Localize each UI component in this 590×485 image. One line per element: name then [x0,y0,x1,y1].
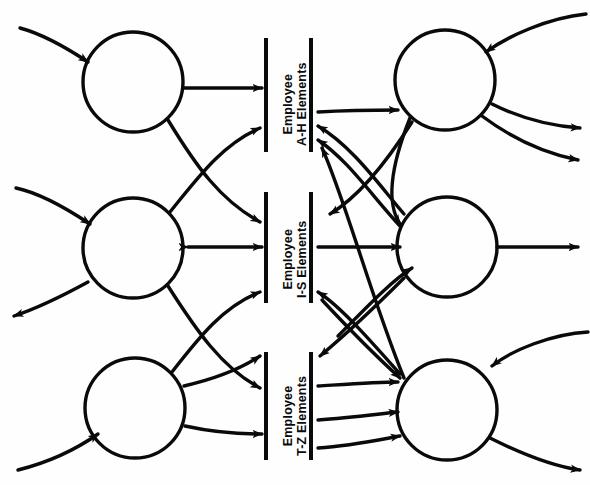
data-store-label-2-line1: Employee [281,229,295,290]
flow-p2-to-ds3 [168,286,260,388]
data-store-label-1: Employee A-H Elements [281,62,309,146]
external-flow-in-bottom-right [492,332,588,366]
flow-ds3-to-p6-b [318,412,398,420]
external-flow-out-middle-left [14,282,88,316]
data-store-label-3-line1: Employee [281,386,295,447]
external-flow-in-top-left [20,28,88,62]
process-circle-middle-right [397,197,497,297]
flow-ds3-to-p6-a [318,382,398,386]
data-store-label-2: Employee I-S Elements [281,221,309,298]
process-circle-bottom-right [397,360,497,460]
process-circle-bottom-left [85,358,185,458]
flow-p3-to-ds3 [185,426,262,434]
diagram-canvas: Employee A-H Elements Employee I-S Eleme… [0,0,590,485]
external-flow-out-top-right-upper [492,104,580,128]
flow-ds1-to-p4 [318,110,398,112]
external-flow-in-bottom-left [18,434,98,470]
data-store-label-2-line2: I-S Elements [295,221,309,298]
data-store-label-3-line2: T-Z Elements [295,376,309,456]
external-flow-in-middle-left [16,188,90,224]
process-circle-top-left [83,32,183,132]
flow-p2-to-ds1 [170,128,260,212]
process-circle-top-right [395,30,495,130]
external-flow-in-top-right [486,14,586,52]
data-store-label-1-line2: A-H Elements [295,62,309,146]
data-store-label-1-line1: Employee [281,74,295,135]
external-flow-out-bottom-right [490,438,580,470]
external-flow-out-top-right-lower [482,116,578,160]
flow-p3-to-ds2 [172,292,260,372]
flow-ds3-to-p6-c [318,436,400,448]
process-circle-middle-left [83,198,183,298]
data-store-label-3: Employee T-Z Elements [281,376,309,456]
